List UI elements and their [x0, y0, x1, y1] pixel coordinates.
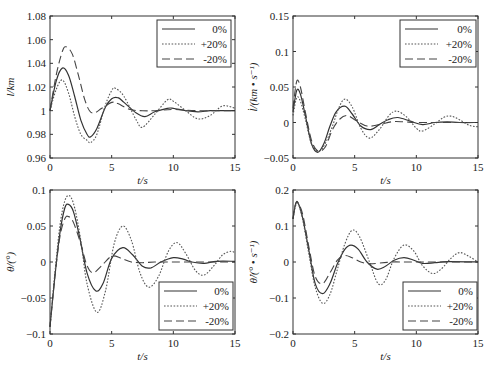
legend-label: +20%: [203, 300, 229, 312]
y-tick-label: −0.1: [26, 328, 46, 340]
legend-label: -20%: [205, 315, 229, 327]
y-tick-label: 0: [284, 256, 290, 268]
legend-label: 0%: [212, 23, 227, 35]
legend-label: +20%: [447, 300, 473, 312]
x-axis-label: t/s: [137, 174, 147, 186]
y-tick-label: 1.02: [27, 81, 46, 93]
y-axis-label: θ̇/(° • s⁻¹): [247, 240, 260, 283]
y-tick-label: 1.08: [27, 10, 47, 22]
x-tick-label: 0: [47, 337, 53, 349]
subplot-l: 0510150.960.9811.021.041.061.08t/sl/km0%…: [4, 10, 241, 186]
x-tick-label: 5: [352, 337, 358, 349]
y-tick-label: −0.05: [264, 152, 290, 164]
y-tick-label: −0.05: [21, 292, 47, 304]
x-tick-label: 15: [473, 161, 485, 173]
legend-label: +20%: [201, 38, 227, 50]
y-tick-label: 0.1: [32, 184, 46, 196]
x-tick-label: 15: [473, 337, 485, 349]
y-tick-label: 0.05: [27, 220, 47, 232]
legend-label: -20%: [449, 315, 473, 327]
y-tick-label: 1.04: [27, 57, 47, 69]
x-tick-label: 10: [411, 161, 423, 173]
y-axis-label: l̇/(km • s⁻¹): [247, 62, 260, 111]
y-tick-label: −0.2: [269, 328, 289, 340]
legend-label: +20%: [446, 38, 472, 50]
x-tick-label: 15: [230, 161, 242, 173]
y-tick-label: 0.96: [27, 152, 47, 164]
y-tick-label: 0.98: [27, 128, 47, 140]
x-tick-label: 15: [230, 337, 242, 349]
y-tick-label: 1.06: [27, 34, 47, 46]
series-line-solid: [293, 89, 478, 152]
x-tick-label: 10: [168, 161, 180, 173]
y-tick-label: 0.05: [270, 81, 290, 93]
x-axis-label: t/s: [137, 350, 147, 362]
x-tick-label: 0: [47, 161, 53, 173]
x-tick-label: 10: [168, 337, 180, 349]
subplot-theta: 051015−0.1−0.0500.050.1t/sθ/(°)0%+20%-20…: [4, 184, 241, 362]
y-axis-label: θ/(°): [4, 252, 17, 273]
series-line-dotted: [293, 97, 478, 151]
x-axis-label: t/s: [380, 174, 390, 186]
y-tick-label: 0.1: [275, 46, 289, 58]
x-tick-label: 5: [109, 337, 115, 349]
legend-label: 0%: [457, 23, 472, 35]
x-tick-label: 5: [352, 161, 358, 173]
x-tick-label: 10: [411, 337, 423, 349]
subplot-theta-dot: 051015−0.2−0.100.10.2t/sθ̇/(° • s⁻¹)0%+2…: [247, 184, 484, 362]
y-tick-label: −0.1: [269, 292, 289, 304]
legend-label: 0%: [214, 285, 229, 297]
y-tick-label: 1: [41, 105, 47, 117]
y-tick-label: 0.2: [275, 184, 289, 196]
y-tick-label: 0: [284, 117, 290, 129]
x-tick-label: 5: [109, 161, 115, 173]
subplot-l-dot: 051015−0.0500.050.10.15t/sl̇/(km • s⁻¹)0…: [247, 10, 484, 186]
legend-label: -20%: [203, 53, 227, 65]
y-axis-label: l/km: [4, 77, 16, 96]
y-tick-label: 0: [41, 256, 47, 268]
legend-label: 0%: [458, 285, 473, 297]
legend-label: -20%: [448, 53, 472, 65]
x-axis-label: t/s: [380, 350, 390, 362]
x-tick-label: 0: [290, 337, 296, 349]
y-tick-label: 0.15: [270, 10, 290, 22]
figure: 0510150.960.9811.021.041.061.08t/sl/km0%…: [0, 0, 490, 366]
series-line-dashed: [293, 202, 478, 284]
y-tick-label: 0.1: [275, 220, 289, 232]
x-tick-label: 0: [290, 161, 296, 173]
